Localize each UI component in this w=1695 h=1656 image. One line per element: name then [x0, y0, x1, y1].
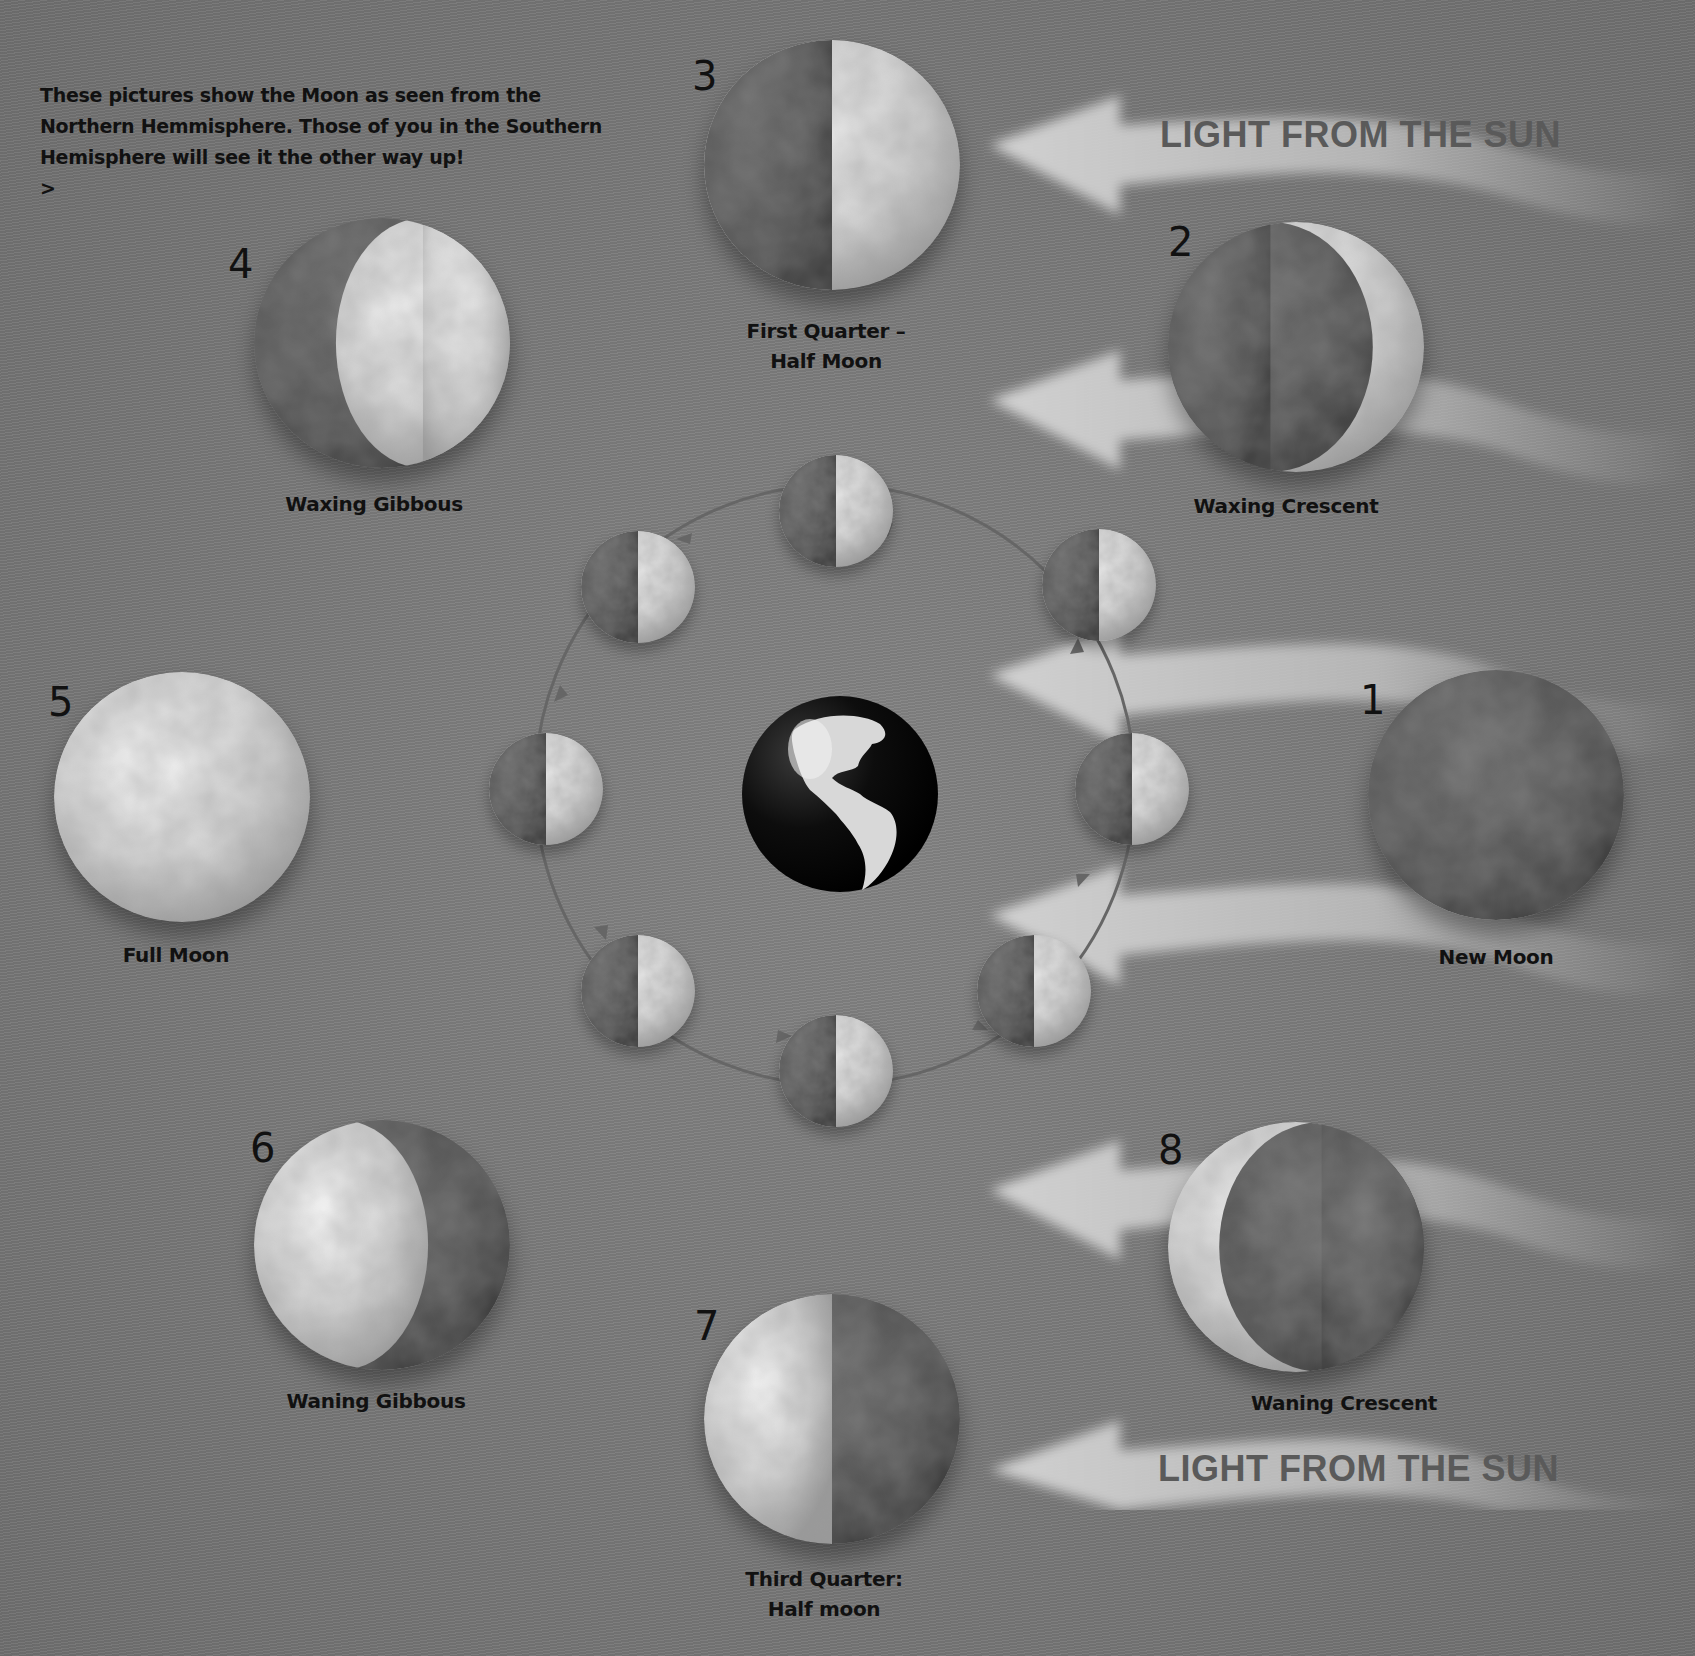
orbit-arrow-icon [676, 533, 692, 544]
sun-label-top: LIGHT FROM THE SUN [1160, 114, 1561, 156]
intro-line: Hemisphere will see it the other way up! [40, 142, 640, 173]
phase-number-7: 7 [694, 1306, 719, 1346]
phase-label-1: New Moon [1376, 942, 1616, 972]
moon-phase-2-waxing-crescent [1168, 222, 1424, 472]
phase-label-line: Third Quarter: [704, 1564, 944, 1594]
phase-label-line: Waning Crescent [1224, 1388, 1464, 1418]
orbit-arrow-icon [1070, 638, 1084, 654]
phase-label-line: Half Moon [706, 346, 946, 376]
phase-label-5: Full Moon [56, 940, 296, 970]
phase-number-4: 4 [228, 244, 253, 284]
orbit-moon-4 [581, 531, 695, 643]
phase-label-line: Waxing Crescent [1166, 491, 1406, 521]
orbit-arrow-icon [594, 925, 608, 940]
phase-number-8: 8 [1158, 1130, 1183, 1170]
intro-text: These pictures show the Moon as seen fro… [40, 80, 640, 204]
phase-label-line: Full Moon [56, 940, 296, 970]
phase-label-line: Waxing Gibbous [254, 489, 494, 519]
phase-label-7: Third Quarter: Half moon [704, 1564, 944, 1624]
sun-label-bottom: LIGHT FROM THE SUN [1158, 1448, 1559, 1490]
phase-label-8: Waning Crescent [1224, 1388, 1464, 1418]
phase-label-line: Half moon [704, 1594, 944, 1624]
phase-label-line: New Moon [1376, 942, 1616, 972]
phase-number-1: 1 [1360, 680, 1385, 720]
moon-phase-1-new [1368, 670, 1624, 920]
orbit-moon-8 [977, 935, 1091, 1047]
moon-phase-3-first-quarter [704, 40, 960, 290]
earth [738, 694, 942, 894]
phase-number-2: 2 [1168, 222, 1193, 262]
orbit-arrow-icon [1076, 874, 1090, 887]
moon-phase-4-waxing-gibbous [254, 218, 510, 468]
intro-line: Northern Hemmisphere. Those of you in th… [40, 111, 640, 142]
phase-label-4: Waxing Gibbous [254, 489, 494, 519]
phase-label-3: First Quarter – Half Moon [706, 316, 946, 376]
phase-label-line: Waning Gibbous [256, 1386, 496, 1416]
phase-label-line: First Quarter – [706, 316, 946, 346]
intro-more-link[interactable]: > [40, 173, 640, 204]
orbit-moon-1 [1075, 733, 1189, 845]
phase-label-2: Waxing Crescent [1166, 491, 1406, 521]
moon-phase-6-waning-gibbous [254, 1120, 510, 1370]
earth-globe-icon [738, 694, 942, 894]
orbit-moon-3 [779, 455, 893, 567]
moon-phase-5-full [54, 672, 310, 922]
orbit-moon-7 [779, 1015, 893, 1127]
orbit-moon-5 [489, 733, 603, 845]
moon-phase-7-third-quarter [704, 1294, 960, 1544]
orbit-moon-6 [581, 935, 695, 1047]
phase-number-5: 5 [48, 682, 73, 722]
phase-number-6: 6 [250, 1128, 275, 1168]
phase-number-3: 3 [692, 56, 717, 96]
intro-line: These pictures show the Moon as seen fro… [40, 80, 640, 111]
moon-phase-8-waning-crescent [1168, 1122, 1424, 1372]
orbit-moon-2 [1042, 529, 1156, 641]
phase-label-6: Waning Gibbous [256, 1386, 496, 1416]
orbit-arrow-icon [554, 685, 568, 702]
